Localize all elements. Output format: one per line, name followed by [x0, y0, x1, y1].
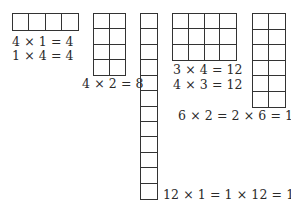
grid-cell — [173, 29, 189, 44]
grid-cell — [253, 92, 269, 108]
grid-cell — [189, 45, 205, 60]
array-grid-12x1 — [140, 13, 158, 200]
grid-cell — [110, 45, 126, 60]
grid-cell — [141, 60, 157, 75]
grid-cell — [269, 14, 285, 30]
grid-cell — [269, 45, 285, 61]
grid-cell — [94, 29, 110, 44]
grid-cell — [141, 29, 157, 44]
grid-cell — [13, 14, 29, 30]
grid-cell — [141, 107, 157, 122]
grid-cell — [141, 137, 157, 152]
grid-cell — [141, 14, 157, 29]
equation-3x4-b: 4 × 3 = 12 — [173, 78, 243, 92]
grid-cell — [141, 184, 157, 199]
equation-12x1: 12 × 1 = 1 × 12 = 12 — [163, 188, 291, 202]
equation-4x1-a: 4 × 1 = 4 — [12, 35, 74, 49]
grid-cell — [94, 45, 110, 60]
grid-cell — [253, 14, 269, 30]
grid-cell — [110, 14, 126, 29]
grid-cell — [141, 76, 157, 91]
grid-cell — [220, 29, 236, 44]
grid-cell — [189, 14, 205, 29]
array-grid-3x4 — [172, 13, 237, 61]
grid-cell — [110, 60, 126, 75]
grid-cell — [220, 14, 236, 29]
grid-cell — [141, 168, 157, 183]
grid-cell — [205, 29, 221, 44]
grid-cell — [46, 14, 62, 30]
grid-cell — [253, 45, 269, 61]
equation-3x4-a: 3 × 4 = 12 — [173, 63, 243, 77]
grid-cell — [29, 14, 45, 30]
grid-cell — [253, 76, 269, 92]
array-grid-6x2 — [252, 13, 286, 108]
grid-cell — [269, 30, 285, 46]
grid-cell — [189, 29, 205, 44]
grid-cell — [173, 45, 189, 60]
array-grid-4x1 — [12, 13, 79, 31]
grid-cell — [141, 45, 157, 60]
grid-cell — [62, 14, 78, 30]
grid-cell — [141, 153, 157, 168]
equation-4x1-b: 1 × 4 = 4 — [12, 49, 74, 63]
grid-cell — [110, 29, 126, 44]
grid-cell — [253, 61, 269, 77]
grid-cell — [220, 45, 236, 60]
grid-cell — [94, 60, 110, 75]
grid-cell — [253, 30, 269, 46]
grid-cell — [141, 91, 157, 106]
grid-cell — [173, 14, 189, 29]
grid-cell — [269, 61, 285, 77]
grid-cell — [141, 122, 157, 137]
grid-cell — [269, 76, 285, 92]
grid-cell — [94, 14, 110, 29]
grid-cell — [205, 45, 221, 60]
equation-4x2: 4 × 2 = 8 — [82, 77, 144, 91]
grid-cell — [269, 92, 285, 108]
array-grid-4x2 — [93, 13, 126, 76]
equation-6x2: 6 × 2 = 2 × 6 = 12 — [178, 109, 291, 123]
grid-cell — [205, 14, 221, 29]
